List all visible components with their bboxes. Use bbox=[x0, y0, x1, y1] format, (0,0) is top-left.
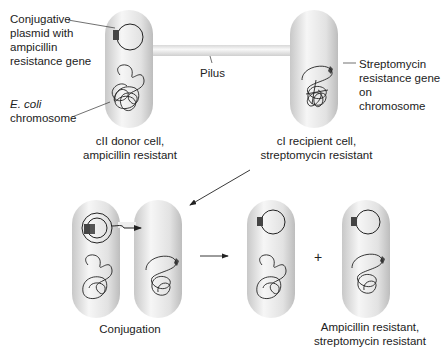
recipient-line: streptomycin resistant bbox=[254, 148, 379, 162]
result-cell-1 bbox=[247, 200, 295, 318]
strep-gene-label: Streptomycin resistance gene on chromoso… bbox=[359, 57, 441, 113]
conjugation-label: Conjugation bbox=[90, 322, 170, 336]
donor-line: cII donor cell, bbox=[75, 134, 185, 148]
result-line: streptomycin resistant bbox=[300, 334, 440, 348]
result-line: Ampicillin resistant, bbox=[300, 320, 440, 334]
strep-line: Streptomycin bbox=[359, 57, 441, 71]
result-label: Ampicillin resistant, streptomycin resis… bbox=[300, 320, 440, 348]
plus-sign: + bbox=[314, 250, 322, 264]
ecoli-text: E. coli bbox=[10, 97, 76, 111]
recipient-label: cI recipient cell, streptomycin resistan… bbox=[254, 134, 379, 162]
plasmid-label: Conjugative plasmid with ampicillin resi… bbox=[10, 12, 91, 68]
chromosome-label: E. coli chromosome bbox=[10, 97, 76, 125]
strep-line: resistance gene bbox=[359, 71, 441, 85]
recipient-cell bbox=[290, 10, 338, 128]
strep-line: on chromosome bbox=[359, 85, 441, 113]
donor-label: cII donor cell, ampicillin resistant bbox=[75, 134, 185, 162]
recipient-line: cI recipient cell, bbox=[254, 134, 379, 148]
donor-line: ampicillin resistant bbox=[75, 148, 185, 162]
arrow-to-conjugation bbox=[190, 170, 250, 205]
chromosome-text: chromosome bbox=[10, 111, 76, 125]
result-cell-2 bbox=[342, 200, 390, 318]
plasmid-label-line: Conjugative bbox=[10, 12, 91, 26]
plasmid-label-line: plasmid with bbox=[10, 26, 91, 40]
conjugation-pair bbox=[72, 200, 182, 318]
plasmid-label-line: ampicillin bbox=[10, 40, 91, 54]
pilus-label: Pilus bbox=[200, 66, 225, 80]
plasmid-label-line: resistance gene bbox=[10, 54, 91, 68]
